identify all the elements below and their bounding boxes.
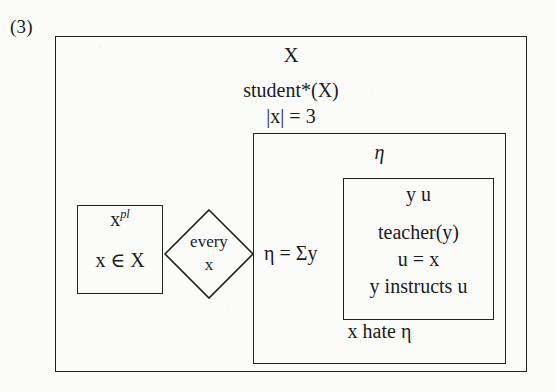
inner-drs-universe: y u — [343, 184, 494, 205]
quantifier-diamond: every x — [163, 208, 255, 300]
left-drs-universe-superscript: pl — [120, 207, 130, 221]
diamond-shape-icon — [163, 208, 255, 300]
inner-drs-condition-teacher: teacher(y) — [343, 222, 494, 243]
middle-drs-bottom-condition: x hate η — [253, 321, 506, 342]
inner-drs-condition-identity: u = x — [343, 249, 494, 270]
inner-drs-condition-instructs: y instructs u — [343, 276, 494, 297]
left-drs-universe: xpl — [77, 209, 163, 230]
middle-drs-universe: η — [253, 142, 506, 163]
left-drs-condition: x ∈ X — [77, 250, 163, 271]
outer-drs-condition-cardinality: |x| = 3 — [55, 106, 527, 127]
equation-number: (3) — [10, 16, 33, 38]
drs-figure: (3) X student*(X) |x| = 3 xpl x ∈ X ever… — [0, 0, 555, 392]
left-drs-universe-variable: x — [110, 208, 120, 230]
outer-drs-condition-student: student*(X) — [55, 80, 527, 101]
outer-drs-universe: X — [55, 44, 527, 66]
middle-drs-sum-equation: η = Σy — [256, 243, 342, 264]
